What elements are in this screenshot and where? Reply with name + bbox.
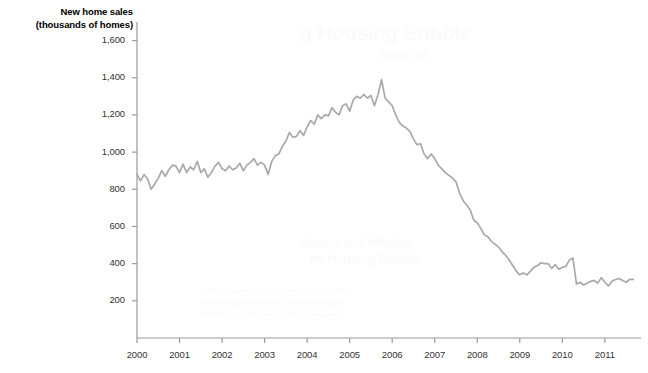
x-tick-label: 2006 [372, 349, 412, 360]
y-tick-label: 600 [79, 220, 125, 231]
y-tick-label: 1,200 [79, 108, 125, 119]
y-tick-label: 1,000 [79, 146, 125, 157]
x-tick-label: 2005 [330, 349, 370, 360]
x-tick-label: 2011 [585, 349, 625, 360]
y-tick-label: 200 [79, 294, 125, 305]
axis-lines [137, 22, 641, 338]
chart-axis-title-line2: (thousands of homes) [28, 19, 133, 32]
x-tick-label: 2010 [542, 349, 582, 360]
x-tick-label: 2008 [457, 349, 497, 360]
y-tick-label: 1,600 [79, 34, 125, 45]
new-home-sales-line [137, 80, 633, 286]
x-tick-label: 2009 [500, 349, 540, 360]
x-tick-label: 2004 [287, 349, 327, 360]
x-tick-label: 2003 [245, 349, 285, 360]
y-axis-ticks [132, 41, 137, 301]
x-tick-label: 2007 [415, 349, 455, 360]
y-tick-label: 400 [79, 257, 125, 268]
x-tick-label: 2001 [160, 349, 200, 360]
x-tick-label: 2000 [117, 349, 157, 360]
x-tick-label: 2002 [202, 349, 242, 360]
chart-axis-title: New home sales (thousands of homes) [28, 6, 133, 31]
y-tick-label: 1,400 [79, 71, 125, 82]
y-tick-label: 800 [79, 183, 125, 194]
x-axis-ticks [137, 338, 605, 343]
chart-axis-title-line1: New home sales [28, 6, 133, 19]
new-home-sales-chart: g Housing Bubble reasing ulation and Inf… [0, 0, 648, 373]
